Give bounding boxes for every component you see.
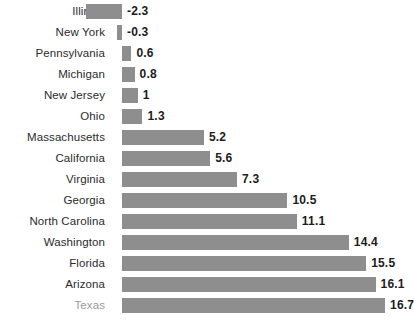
bar-chart: Illinois-2.3New York-0.3Pennsylvania0.6M… [0,0,414,320]
bar [122,256,366,271]
value-label: 16.1 [381,274,405,295]
bar-track: 10.5 [0,190,414,211]
bar-track: 0.6 [0,43,414,64]
bar [122,172,237,187]
bar [122,130,204,145]
bar [122,193,287,208]
bar [122,46,131,61]
value-label: 0.8 [140,64,157,85]
bar [122,88,138,103]
bar-track: 1.3 [0,106,414,127]
value-label: 1 [143,85,150,106]
bar-row: Arizona16.1 [0,274,414,295]
bar-track: 11.1 [0,211,414,232]
bar [122,109,142,124]
bar-row: Washington14.4 [0,232,414,253]
value-label: 7.3 [242,169,259,190]
bar-row: New Jersey1 [0,85,414,106]
value-label: 16.7 [390,295,414,316]
value-label: 15.5 [371,253,395,274]
bar-track: 7.3 [0,169,414,190]
bar-row: Michigan0.8 [0,64,414,85]
bar [122,235,349,250]
bar [86,4,122,19]
bar [122,67,135,82]
value-label: -0.3 [127,22,148,43]
bar-track: 14.4 [0,232,414,253]
bar [122,151,210,166]
value-label: 14.4 [354,232,378,253]
bar-track: -2.3 [0,1,414,22]
bar-row: Florida15.5 [0,253,414,274]
bar [122,277,376,292]
bar [117,25,122,40]
value-label: 0.6 [136,43,153,64]
bar-row: California5.6 [0,148,414,169]
bar-row: Texas16.7 [0,295,414,316]
value-label: 10.5 [292,190,316,211]
bar-track: 5.2 [0,127,414,148]
bar-row: Massachusetts5.2 [0,127,414,148]
bar [122,298,385,313]
bar-row: Virginia7.3 [0,169,414,190]
bar-track: 1 [0,85,414,106]
bar-row: Pennsylvania0.6 [0,43,414,64]
value-label: 11.1 [302,211,326,232]
bar [122,214,297,229]
bar-track: 16.7 [0,295,414,316]
bar-track: 0.8 [0,64,414,85]
bar-row: North Carolina11.1 [0,211,414,232]
bar-track: 16.1 [0,274,414,295]
value-label: 1.3 [147,106,164,127]
bar-row: Ohio1.3 [0,106,414,127]
value-label: -2.3 [127,1,148,22]
bar-track: 15.5 [0,253,414,274]
bar-row: New York-0.3 [0,22,414,43]
value-label: 5.2 [209,127,226,148]
bar-row: Georgia10.5 [0,190,414,211]
value-label: 5.6 [215,148,232,169]
bar-track: 5.6 [0,148,414,169]
bar-row: Illinois-2.3 [0,1,414,22]
bar-track: -0.3 [0,22,414,43]
